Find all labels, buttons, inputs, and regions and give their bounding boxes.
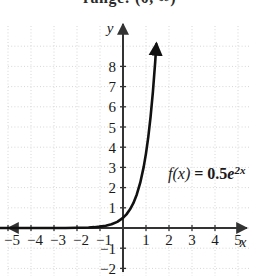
y-tick-label: 6: [109, 99, 117, 115]
x-axis-label: x: [239, 234, 247, 250]
y-tick-label: 3: [109, 160, 117, 176]
function-equation-label: f(x) = 0.5e2x: [168, 164, 246, 183]
x-tick-label: −5: [4, 232, 20, 248]
y-tick-label: 7: [109, 79, 117, 95]
x-tick-label: 4: [211, 232, 219, 248]
x-tick-label: −3: [50, 232, 66, 248]
y-tick-label: 1: [109, 200, 117, 216]
y-tick-label: −2: [100, 261, 116, 277]
x-tick-label: 2: [165, 232, 173, 248]
cropped-caption-text: range: (0, ∞): [0, 0, 259, 9]
graph-canvas: −5−4−3−2−112345 −2−112345678 x y f(x) = …: [0, 0, 259, 278]
y-axis-label: y: [105, 20, 114, 36]
x-tick-label: 3: [188, 232, 196, 248]
exponential-function-figure: range: (0, ∞) −5−4−3−2−112345 −2−1123456…: [0, 0, 259, 278]
x-tick-label: −4: [27, 232, 43, 248]
y-tick-label: 4: [109, 140, 117, 156]
y-tick-label: 5: [109, 120, 117, 136]
y-tick-label: 8: [109, 59, 117, 75]
y-tick-label: 2: [109, 180, 117, 196]
x-tick-label: −2: [73, 232, 89, 248]
y-tick-label: −1: [100, 241, 116, 257]
x-tick-label: 1: [142, 232, 150, 248]
